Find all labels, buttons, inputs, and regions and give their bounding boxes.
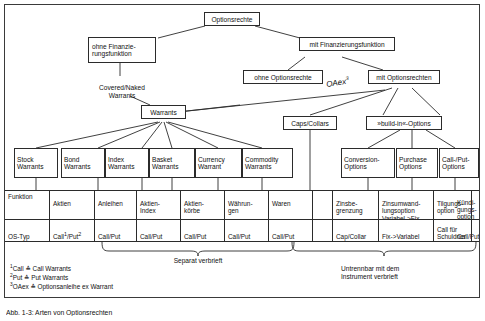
node-label: Basket Warrants — [152, 156, 179, 170]
footnote-3: 3OAex ≙ Optionsanleihe ex Warrant — [10, 282, 113, 291]
node-label: Caps/Collars — [291, 120, 329, 127]
table-col-divider — [312, 190, 313, 242]
label-text: Untrennbar mit dem Instrument verbrieft — [341, 265, 399, 279]
node-label: Stock Warrants — [17, 156, 44, 170]
node-label: Currency Warrant — [198, 156, 225, 170]
node-index-warrants[interactable]: Index Warrants — [105, 148, 149, 178]
node-stock-warrants[interactable]: Stock Warrants — [14, 148, 58, 178]
node-label: ohne Optionsrechte — [254, 74, 312, 81]
table-col-divider — [378, 190, 379, 242]
annotation-superscript: 3 — [345, 75, 349, 81]
node-bond-warrants[interactable]: Bond Warrants — [61, 148, 105, 178]
table-row-divider — [5, 219, 479, 220]
table-col-divider — [180, 190, 181, 242]
node-label: Call-/Put- Options — [442, 156, 469, 170]
table-col-divider — [433, 190, 434, 242]
node-label: ohne Finanzie- rungsfunktion — [92, 43, 136, 57]
node-basket-warrants[interactable]: Basket Warrants — [149, 148, 195, 178]
caption-text: Abb. 1-3: Arten von Optionsrechten — [6, 309, 112, 316]
footnote-text: OAex ≙ Optionsanleihe ex Warrant — [13, 283, 113, 290]
node-mit-optionsrechten[interactable]: mit Optionsrechten — [368, 70, 440, 84]
label-text: Covered/Naked Warrants — [99, 84, 145, 98]
table-col-divider — [471, 190, 472, 242]
node-label: Conversion- Options — [344, 156, 380, 170]
attribute-table — [5, 190, 479, 242]
node-optionsrechte[interactable]: Optionsrechte — [204, 12, 260, 26]
node-currency-warrant[interactable]: Currency Warrant — [195, 148, 242, 178]
node-label: Index Warrants — [108, 156, 135, 170]
figure-canvas: Optionsrechte ohne Finanzie- rungsfunkti… — [0, 0, 485, 321]
table-col-divider — [94, 190, 95, 242]
footnote-1: 1Call ≙ Call Warrants — [10, 264, 71, 273]
table-col-divider — [268, 190, 269, 242]
node-purchase-options[interactable]: Purchase Options — [396, 148, 438, 178]
footnote-text: Call ≙ Call Warrants — [13, 265, 71, 272]
node-label: Commodity Warrants — [245, 156, 278, 170]
footnote-2: 2Put ≙ Put Warrants — [10, 273, 68, 282]
brace-label-untrennbar: Untrennbar mit dem Instrument verbrieft — [341, 258, 471, 280]
node-caps-collars[interactable]: Caps/Collars — [283, 116, 337, 130]
node-conversion-options[interactable]: Conversion- Options — [341, 148, 395, 178]
table-col-divider — [224, 190, 225, 242]
node-call-put-options[interactable]: Call-/Put- Options — [439, 148, 479, 178]
node-label: Bond Warrants — [64, 156, 91, 170]
node-ohne-finanzierungsfunktion[interactable]: ohne Finanzie- rungsfunktion — [88, 37, 156, 63]
table-col-divider — [49, 190, 50, 242]
node-label: Optionsrechte — [211, 16, 252, 23]
table-col-divider — [332, 190, 333, 242]
brace-separat-verbrieft — [100, 242, 296, 256]
figure-caption: Abb. 1-3: Arten von Optionsrechten — [6, 309, 306, 316]
brace-label-separat-verbrieft: Separat verbrieft — [148, 257, 248, 264]
node-label: »build-in«-Options — [377, 120, 431, 127]
label-covered-naked-warrants: Covered/Naked Warrants — [84, 77, 160, 99]
node-label: Warrants — [150, 109, 177, 116]
label-text: Separat verbrieft — [174, 257, 223, 264]
footnote-text: Put ≙ Put Warrants — [13, 274, 69, 281]
node-mit-finanzierungsfunktion[interactable]: mit Finanzierungsfunktion — [299, 37, 395, 51]
table-col-divider — [136, 190, 137, 242]
node-label: mit Optionsrechten — [376, 74, 431, 81]
node-commodity-warrants[interactable]: Commodity Warrants — [242, 148, 293, 178]
node-label: mit Finanzierungsfunktion — [309, 41, 384, 48]
node-label: Purchase Options — [399, 156, 427, 170]
node-warrants[interactable]: Warrants — [141, 105, 186, 119]
node-ohne-optionsrechte[interactable]: ohne Optionsrechte — [243, 70, 323, 84]
brace-untrennbar — [290, 242, 478, 256]
node-build-in-options[interactable]: »build-in«-Options — [366, 116, 442, 130]
